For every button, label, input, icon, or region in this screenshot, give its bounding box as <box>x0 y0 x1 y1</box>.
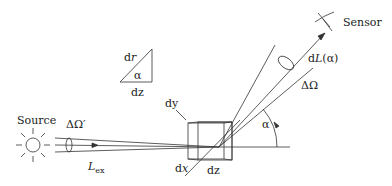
sun-icon <box>16 128 50 162</box>
triangle-dz-label: dz <box>131 87 144 98</box>
dx-var: x <box>182 162 188 175</box>
dL-prefix: d <box>308 52 315 65</box>
dr-var: r <box>131 51 136 64</box>
delta-omega-prime-label: ΔΩ′ <box>66 119 86 130</box>
source-label: Source <box>17 115 56 126</box>
dx-d: d <box>175 162 182 175</box>
dL-alpha-label: dL(α) <box>308 53 338 64</box>
delta-omega-label: ΔΩ <box>301 80 318 91</box>
volume-element-cube <box>176 110 232 160</box>
alpha-label: α <box>262 119 269 130</box>
dy-label: dy <box>165 98 178 109</box>
dx-label: dx <box>175 163 188 174</box>
dL-arg: (α) <box>322 52 338 65</box>
diagram-graphics <box>0 0 392 186</box>
sensor-icon <box>315 12 334 31</box>
triangle-dr-label: dr <box>124 52 136 63</box>
incident-beam <box>55 138 219 152</box>
sensor-label: Sensor <box>343 17 382 28</box>
triangle-alpha-label: α <box>134 70 141 81</box>
L-ex-label: Lex <box>88 161 105 175</box>
L-ex-sub: ex <box>95 166 104 175</box>
dr-d: d <box>124 51 131 64</box>
cube-dz-label: dz <box>207 165 220 176</box>
scattering-geometry-diagram: Sensor Source dL(α) ΔΩ ΔΩ′ Lex α dy dx d… <box>0 0 392 186</box>
